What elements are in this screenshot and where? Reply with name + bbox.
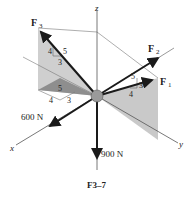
figure-caption: F3–7 <box>87 180 106 190</box>
f1-slope-vert: 3 <box>139 81 143 90</box>
f4-label: 600 N <box>21 112 44 122</box>
f3-slope-hyp: 5 <box>63 47 67 56</box>
z-axis-label: z <box>94 3 99 13</box>
f3-slope-vert: 4 <box>48 47 52 56</box>
f1-label: F <box>160 76 166 87</box>
f1-slope-horiz: 4 <box>129 90 133 99</box>
f4-arrow <box>50 96 97 126</box>
f3-label: F <box>31 17 37 28</box>
f2-label: F <box>148 43 154 54</box>
force-diagram: z x y F 3 F 2 F 1 5 4 3 5 4 3 5 3 4 600 … <box>0 0 194 203</box>
f3-base-a: 4 <box>49 96 53 105</box>
x-axis-label: x <box>9 143 14 153</box>
f1-sub: 1 <box>168 81 172 89</box>
particle-ball <box>91 90 103 102</box>
f3-base-hyp: 5 <box>58 84 62 93</box>
f5-label: 900 N <box>101 149 124 159</box>
f3-slope-horiz: 3 <box>58 58 62 67</box>
f3-base-b: 3 <box>67 96 71 105</box>
y-axis-label: y <box>178 139 183 149</box>
f2-extension <box>158 48 174 58</box>
f1-slope-hyp: 5 <box>131 72 135 81</box>
f3-sub: 3 <box>39 22 43 30</box>
f2-sub: 2 <box>156 48 160 56</box>
